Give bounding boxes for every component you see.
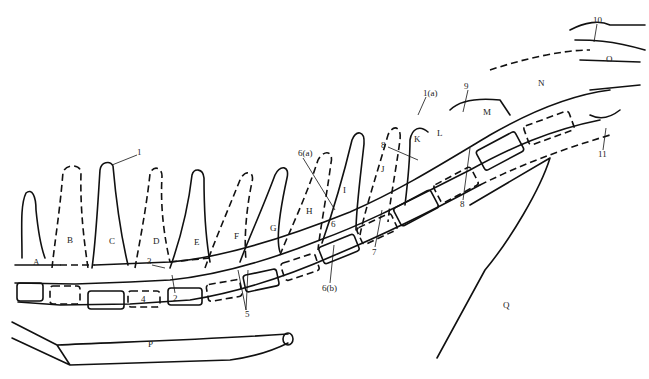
- centrum-K: [393, 189, 439, 226]
- label-6b: 6(b): [322, 284, 337, 293]
- centra-top: [15, 120, 600, 284]
- label-O: O: [606, 55, 613, 64]
- label-I: I: [343, 186, 346, 195]
- label-N: N: [538, 79, 545, 88]
- spine-A: [22, 192, 45, 258]
- centrum-B: [50, 286, 80, 304]
- arch-line: [15, 90, 610, 265]
- label-P: P: [148, 340, 153, 349]
- label-E: E: [194, 238, 200, 247]
- vertebral-column-diagram: A B C D E F G H I J K L M N O 1 1(a) 2 3…: [0, 0, 649, 379]
- label-K: K: [414, 135, 421, 144]
- spine-B: [52, 166, 88, 268]
- leader-6a: [303, 158, 335, 210]
- label-B: B: [67, 236, 73, 245]
- label-M: M: [483, 108, 491, 117]
- label-8-lower: 8: [460, 200, 465, 209]
- label-10: 10: [593, 16, 602, 25]
- label-4: 4: [141, 295, 146, 304]
- label-5: 5: [245, 310, 250, 319]
- label-L: L: [437, 129, 443, 138]
- label-F: F: [234, 232, 239, 241]
- pelvis-N-outline: [490, 50, 590, 70]
- label-H: H: [306, 207, 313, 216]
- label-11: 11: [598, 150, 607, 159]
- centra-bottom: [18, 185, 480, 305]
- leader-1: [112, 155, 137, 165]
- leader-10: [594, 24, 597, 42]
- label-J: J: [381, 165, 385, 174]
- label-A: A: [33, 258, 40, 267]
- label-7: 7: [372, 248, 377, 257]
- label-6a: 6(a): [298, 149, 313, 158]
- label-1: 1: [137, 148, 142, 157]
- leader-3: [152, 265, 165, 268]
- leader-11: [603, 128, 606, 150]
- leader-1a: [418, 97, 426, 115]
- leader-8a: [388, 147, 418, 160]
- centrum-H: [280, 253, 320, 281]
- label-2: 2: [173, 294, 178, 303]
- label-C: C: [109, 237, 115, 246]
- centrum-M: [475, 131, 524, 171]
- leader-2: [172, 275, 175, 293]
- label-D: D: [153, 237, 160, 246]
- centrum-A: [17, 283, 43, 301]
- spine-E: [170, 170, 210, 268]
- centrum-C: [88, 291, 124, 309]
- leader-6b: [330, 245, 334, 283]
- diagram-drawing: [0, 0, 649, 379]
- label-9: 9: [464, 82, 469, 91]
- label-G: G: [270, 224, 277, 233]
- label-3: 3: [147, 257, 152, 266]
- label-6: 6: [331, 220, 336, 229]
- element-Q: [437, 158, 550, 358]
- label-Q: Q: [503, 301, 510, 310]
- spine-F: [205, 173, 253, 268]
- label-8-upper: 8: [381, 141, 386, 150]
- spine-D: [135, 168, 170, 268]
- process-11: [590, 110, 620, 118]
- process-M: [450, 99, 510, 115]
- centra-bottom-dashed: [480, 135, 610, 185]
- label-1a: 1(a): [423, 89, 438, 98]
- spine-C: [92, 163, 128, 268]
